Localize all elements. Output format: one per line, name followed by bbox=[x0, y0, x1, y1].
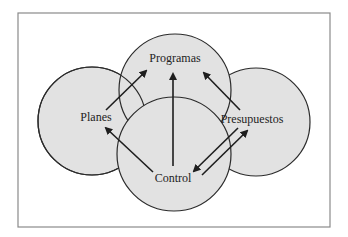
label-presupuestos: Presupuestos bbox=[221, 112, 284, 126]
label-programas: Programas bbox=[149, 51, 201, 65]
diagram-canvas: Programas Planes Presupuestos Control bbox=[0, 0, 348, 237]
label-planes: Planes bbox=[80, 110, 112, 124]
label-control: Control bbox=[155, 171, 192, 185]
